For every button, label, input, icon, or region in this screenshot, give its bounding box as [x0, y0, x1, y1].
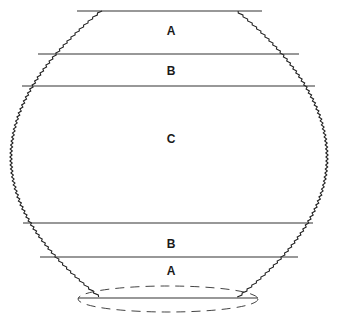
zone-label-center-c: C [167, 132, 176, 146]
zone-label-upper-b: B [167, 64, 176, 78]
base-dashed-ellipse [78, 286, 258, 312]
zone-label-bottom-a: A [167, 264, 176, 278]
barrel-diagram: A B C B A [0, 0, 338, 322]
zone-label-top-a: A [167, 24, 176, 38]
zone-label-lower-b: B [167, 237, 176, 251]
